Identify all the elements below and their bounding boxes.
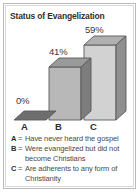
bar-b-side [81, 58, 91, 120]
legend-label-b: Were evangelized but did not become Chri… [25, 144, 131, 164]
legend-key-b: B [11, 144, 16, 153]
legend-item-c: C = Are adherents to any form of Christi… [11, 164, 131, 184]
legend-key-c: C [11, 164, 16, 173]
chart-legend: A = Have never heard the gospel B = Were… [11, 134, 131, 184]
bar-c-side [116, 36, 126, 120]
bars-3d-graphic [8, 24, 132, 122]
category-axis: A B C [8, 121, 132, 133]
legend-label-a: Have never heard the gospel [25, 134, 131, 144]
chart-title: Status of Evangelization [10, 11, 105, 21]
legend-label-c: Are adherents to any form of Christianit… [25, 164, 131, 184]
category-label-b: B [55, 121, 62, 132]
legend-key-a: A [11, 134, 16, 143]
legend-separator-b: = [18, 144, 22, 153]
plot-area: 0% 41% 59% [8, 24, 132, 122]
legend-item-b: B = Were evangelized but did not become … [11, 144, 131, 164]
legend-separator-a: = [18, 134, 22, 143]
chart-figure: Status of Evangelization 0% 41% 59% A B … [0, 0, 140, 193]
category-label-a: A [21, 121, 28, 132]
legend-separator-c: = [18, 164, 22, 173]
bar-value-label-c: 59% [85, 24, 103, 35]
bar-value-label-a: 0% [16, 95, 29, 106]
bar-value-label-b: 41% [49, 46, 67, 57]
category-label-c: C [90, 121, 97, 132]
legend-item-a: A = Have never heard the gospel [11, 134, 131, 144]
